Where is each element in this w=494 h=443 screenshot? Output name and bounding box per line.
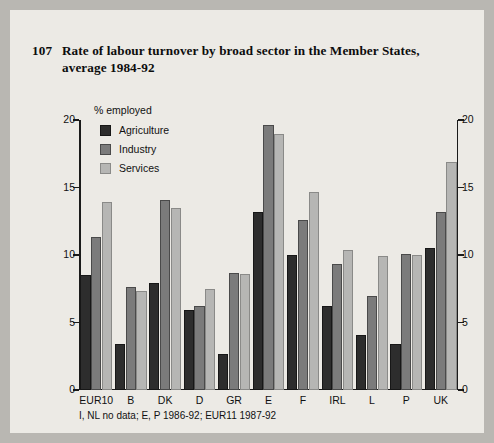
x-axis-label-uk: UK	[424, 394, 458, 406]
bar-group	[425, 120, 457, 390]
bar-agriculture-p	[390, 344, 400, 390]
bar-services-d	[205, 289, 215, 390]
bar-group	[184, 120, 216, 390]
bar-services-e	[274, 134, 284, 391]
bar-agriculture-dk	[149, 283, 159, 390]
y-tick-label-r-5: 5	[462, 316, 488, 328]
bar-services-eur10	[102, 202, 112, 390]
bar-services-b	[136, 291, 146, 390]
bar-industry-dk	[160, 200, 170, 390]
y-tick-label-r-15: 15	[462, 181, 488, 193]
bar-industry-p	[401, 254, 411, 390]
x-axis-label-eur10: EUR10	[79, 394, 113, 406]
x-axis-label-gr: GR	[217, 394, 251, 406]
bar-group	[253, 120, 285, 390]
bar-group	[80, 120, 112, 390]
y-axis-caption: % employed	[94, 104, 152, 116]
bar-services-uk	[446, 162, 456, 390]
bar-services-dk	[171, 208, 181, 390]
bar-industry-gr	[229, 273, 239, 390]
x-axis-label-dk: DK	[148, 394, 182, 406]
bar-agriculture-l	[356, 335, 366, 390]
bar-services-f	[309, 192, 319, 390]
x-axis-label-f: F	[286, 394, 320, 406]
x-axis-label-p: P	[389, 394, 423, 406]
bar-industry-eur10	[91, 237, 101, 390]
figure-footnote: I, NL no data; E, P 1986-92; EUR11 1987-…	[79, 410, 276, 421]
y-tick-label-l-10: 10	[49, 248, 75, 260]
bar-agriculture-eur10	[80, 275, 90, 390]
x-axis-label-b: B	[113, 394, 147, 406]
bar-group	[149, 120, 181, 390]
bar-agriculture-gr	[218, 354, 228, 390]
bar-agriculture-e	[253, 212, 263, 390]
x-axis-labels: EUR10BDKDGREFIRLLPUK	[79, 394, 458, 410]
y-tick-label-l-15: 15	[49, 181, 75, 193]
bar-services-p	[412, 255, 422, 390]
x-axis-label-d: D	[182, 394, 216, 406]
bar-industry-uk	[436, 212, 446, 390]
bar-group	[287, 120, 319, 390]
y-tick-label-l-0: 0	[49, 383, 75, 395]
bar-services-l	[378, 256, 388, 390]
figure-number: 107	[32, 42, 62, 59]
y-tick-label-r-10: 10	[462, 248, 488, 260]
bar-industry-d	[194, 306, 204, 390]
bar-industry-e	[263, 125, 273, 390]
y-tick-label-r-20: 20	[462, 113, 488, 125]
bar-series-container	[79, 120, 458, 390]
x-axis-label-irl: IRL	[320, 394, 354, 406]
bar-agriculture-d	[184, 310, 194, 390]
y-tick-label-l-5: 5	[49, 316, 75, 328]
bar-group	[115, 120, 147, 390]
y-tick-label-r-0: 0	[462, 383, 488, 395]
bar-services-irl	[343, 250, 353, 390]
y-tick-label-l-20: 20	[49, 113, 75, 125]
bar-group	[356, 120, 388, 390]
bar-industry-b	[126, 287, 136, 390]
x-axis-label-l: L	[355, 394, 389, 406]
bar-group	[322, 120, 354, 390]
bar-group	[390, 120, 422, 390]
bar-agriculture-uk	[425, 248, 435, 390]
bar-agriculture-f	[287, 255, 297, 390]
figure-panel: 107 Rate of labour turnover by broad sec…	[10, 10, 484, 433]
plot-area: 0055101015152020	[79, 120, 458, 390]
x-axis-label-e: E	[251, 394, 285, 406]
bar-industry-irl	[332, 264, 342, 390]
figure-title: 107 Rate of labour turnover by broad sec…	[32, 42, 452, 76]
bar-agriculture-b	[115, 344, 125, 390]
bar-agriculture-irl	[322, 306, 332, 390]
bar-industry-l	[367, 296, 377, 391]
figure-title-text: Rate of labour turnover by broad sector …	[62, 42, 452, 76]
bar-industry-f	[298, 220, 308, 390]
bar-services-gr	[240, 274, 250, 390]
bar-group	[218, 120, 250, 390]
